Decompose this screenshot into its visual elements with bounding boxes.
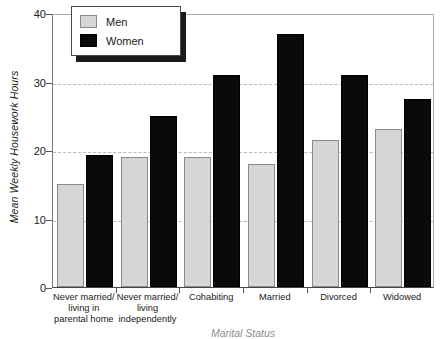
bar-men <box>248 164 275 287</box>
bar-women <box>213 75 240 287</box>
bar-women <box>404 99 431 287</box>
women-swatch-icon <box>80 34 97 47</box>
y-tick-label: 10 <box>2 214 46 226</box>
bar-women <box>277 34 304 287</box>
legend-label-women: Women <box>106 35 144 47</box>
y-tick-label: 0 <box>2 282 46 294</box>
legend-item-men: Men <box>80 12 180 31</box>
y-tick-label: 30 <box>2 77 46 89</box>
chart-legend: Men Women <box>71 6 181 56</box>
x-category-label: Cohabiting <box>179 292 243 303</box>
x-category-label: Married <box>243 292 307 303</box>
legend-item-women: Women <box>80 31 180 50</box>
legend-label-men: Men <box>106 16 127 28</box>
bar-men <box>312 140 339 287</box>
bar-men <box>57 184 84 287</box>
x-axis-title: Marital Status <box>52 327 434 339</box>
bar-women <box>150 116 177 287</box>
x-category-label: Widowed <box>370 292 434 303</box>
bar-women <box>341 75 368 287</box>
bar-women <box>86 155 113 287</box>
bar-men <box>184 157 211 287</box>
x-category-label: Never married/livingindependently <box>116 292 180 326</box>
y-tick-label: 40 <box>2 8 46 20</box>
men-swatch-icon <box>80 15 97 28</box>
y-tick-label: 20 <box>2 145 46 157</box>
x-category-label: Divorced <box>307 292 371 303</box>
y-tick-mark <box>46 288 52 289</box>
x-category-label: Never married/living inparental home <box>52 292 116 326</box>
bar-men <box>121 157 148 287</box>
bar-men <box>375 129 402 287</box>
